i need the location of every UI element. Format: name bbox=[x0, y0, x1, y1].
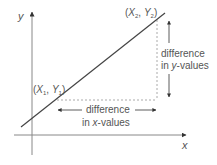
point-1-label: (X1, Y1) bbox=[33, 84, 65, 96]
x-axis-label: x bbox=[181, 139, 188, 151]
y-difference-annotation: difference in y-values bbox=[161, 21, 209, 97]
y-difference-line2: in y-values bbox=[161, 60, 209, 71]
point-2-label: (X2, Y2) bbox=[125, 7, 157, 19]
x-difference-line1: difference bbox=[86, 104, 130, 115]
slope-diagram: y x (X1, Y1) (X2, Y2) difference in y-va… bbox=[0, 0, 217, 165]
x-difference-line2: in x-values bbox=[82, 117, 130, 128]
x-difference-annotation: difference in x-values bbox=[58, 104, 156, 128]
y-difference-line1: difference bbox=[161, 48, 205, 59]
y-axis-label: y bbox=[17, 10, 25, 22]
dashed-guides bbox=[57, 20, 157, 100]
